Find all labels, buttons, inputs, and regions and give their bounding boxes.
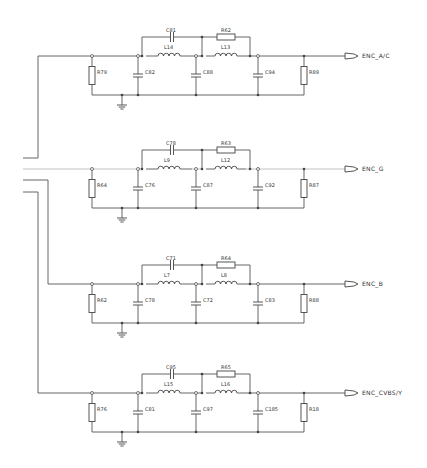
output-resistor-label: R87 xyxy=(309,182,319,188)
middle-capacitor-label: C97 xyxy=(203,406,213,412)
pin-dot xyxy=(195,168,198,171)
input-capacitor-label: C82 xyxy=(145,69,155,75)
bypass-resistor xyxy=(217,147,235,153)
bypass-resistor-label: R65 xyxy=(221,364,231,370)
pin-dot xyxy=(91,283,94,286)
junction-dot xyxy=(303,168,306,171)
input-resistor xyxy=(89,67,95,85)
bypass-capacitor xyxy=(142,260,202,270)
inductor-l2-label: L8 xyxy=(221,272,227,278)
pin-dot xyxy=(257,168,260,171)
ground-icon xyxy=(117,208,127,222)
junction-dot xyxy=(201,36,204,39)
inductor-l1 xyxy=(158,53,180,56)
pin-dot xyxy=(195,392,198,395)
input-resistor xyxy=(89,180,95,198)
middle-capacitor-label: C87 xyxy=(203,182,213,188)
junction-dot xyxy=(201,392,204,395)
input-resistor-label: R79 xyxy=(97,69,107,75)
filter-schematic: ENC_A/CC81R62R79C82L14C88L13C94R89ENC_GC… xyxy=(0,0,427,468)
ground-icon xyxy=(117,323,127,337)
output-capacitor-label: C185 xyxy=(265,406,278,412)
junction-dot xyxy=(195,94,198,97)
output-port-icon xyxy=(345,281,358,287)
output-resistor xyxy=(301,180,307,198)
bypass-capacitor xyxy=(142,145,202,155)
junction-dot xyxy=(137,322,140,325)
junction-dot xyxy=(249,392,252,395)
bypass-capacitor xyxy=(142,369,202,379)
junction-dot xyxy=(195,322,198,325)
pin-dot xyxy=(195,283,198,286)
junction-dot xyxy=(249,283,252,286)
pin-dot xyxy=(137,168,140,171)
bypass-resistor-label: R64 xyxy=(221,255,231,261)
pin-dot xyxy=(91,55,94,58)
output-capacitor-label: C92 xyxy=(265,182,275,188)
junction-dot xyxy=(137,431,140,434)
filter-stage-3: ENC_BC71R64R62C78L7C72L8C83R88 xyxy=(89,255,383,337)
output-resistor xyxy=(301,67,307,85)
net-label: ENC_CVBS/Y xyxy=(362,389,402,397)
junction-dot xyxy=(249,55,252,58)
inductor-l1-label: L9 xyxy=(164,157,170,163)
junction-dot xyxy=(201,55,204,58)
junction-dot xyxy=(201,373,204,376)
pin-dot xyxy=(195,55,198,58)
inductor-l2 xyxy=(215,53,237,56)
input-resistor-label: R62 xyxy=(97,297,107,303)
input-capacitor-label: C81 xyxy=(145,406,155,412)
junction-dot xyxy=(121,431,124,434)
filter-stage-2: ENC_GC78R63R64C76L9C87L12C92R87 xyxy=(89,140,384,222)
pin-dot xyxy=(91,392,94,395)
junction-dot xyxy=(195,207,198,210)
junction-dot xyxy=(257,207,260,210)
inductor-l1 xyxy=(158,281,180,284)
output-resistor-label: R18 xyxy=(309,406,319,412)
output-port-icon xyxy=(345,53,358,59)
output-resistor xyxy=(301,404,307,422)
junction-dot xyxy=(201,283,204,286)
bypass-capacitor-label: C78 xyxy=(166,140,176,146)
input-capacitor xyxy=(133,169,143,208)
input-capacitor xyxy=(133,284,143,323)
pin-dot xyxy=(257,392,260,395)
bypass-capacitor-label: C71 xyxy=(166,255,176,261)
middle-capacitor-label: C88 xyxy=(203,69,213,75)
junction-dot xyxy=(201,264,204,267)
net-label: ENC_B xyxy=(362,280,383,288)
inductor-l2 xyxy=(215,390,237,393)
output-capacitor-label: C83 xyxy=(265,297,275,303)
output-capacitor xyxy=(253,284,263,323)
output-port-icon xyxy=(345,166,358,172)
pin-dot xyxy=(137,283,140,286)
inductor-l2 xyxy=(215,281,237,284)
middle-capacitor xyxy=(191,284,201,323)
filter-stage-1: ENC_A/CC81R62R79C82L14C88L13C94R89 xyxy=(89,27,390,109)
junction-dot xyxy=(141,168,144,171)
bypass-resistor xyxy=(217,371,235,377)
net-label: ENC_G xyxy=(362,165,384,173)
bypass-resistor xyxy=(217,262,235,268)
pin-dot xyxy=(91,168,94,171)
middle-capacitor xyxy=(191,56,201,95)
input-resistor-label: R64 xyxy=(97,182,107,188)
junction-dot xyxy=(195,431,198,434)
output-capacitor xyxy=(253,169,263,208)
input-capacitor-label: C76 xyxy=(145,182,155,188)
inductor-l2 xyxy=(215,166,237,169)
output-capacitor xyxy=(253,393,263,432)
middle-capacitor-label: C72 xyxy=(203,297,213,303)
input-capacitor xyxy=(133,393,143,432)
junction-dot xyxy=(257,94,260,97)
junction-dot xyxy=(137,94,140,97)
bypass-resistor xyxy=(217,34,235,40)
junction-dot xyxy=(257,431,260,434)
pin-dot xyxy=(137,392,140,395)
junction-dot xyxy=(257,322,260,325)
bypass-capacitor-label: C81 xyxy=(166,27,176,33)
output-capacitor-label: C94 xyxy=(265,69,275,75)
input-capacitor xyxy=(133,56,143,95)
bypass-resistor-label: R62 xyxy=(221,27,231,33)
input-wiring xyxy=(23,56,92,393)
